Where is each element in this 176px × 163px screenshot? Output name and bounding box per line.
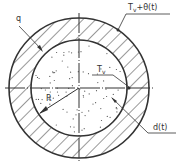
core-dot: [73, 127, 74, 128]
core-dot: [77, 109, 78, 110]
core-dot: [63, 52, 64, 53]
core-dot: [49, 104, 50, 105]
surface-temp-leader: [118, 14, 170, 30]
core-dot: [54, 80, 55, 81]
core-dot: [116, 107, 117, 108]
core-dot: [52, 71, 53, 72]
core-dot: [110, 117, 111, 118]
core-dot: [70, 126, 71, 127]
core-dot: [58, 95, 59, 96]
core-dot: [106, 53, 107, 54]
core-dot: [113, 94, 114, 95]
core-dot: [66, 92, 67, 93]
core-dot: [83, 96, 84, 97]
core-dot: [88, 73, 89, 74]
core-dot: [88, 46, 89, 47]
core-dot: [118, 90, 119, 91]
core-dot: [95, 102, 96, 103]
core-dot: [116, 69, 117, 70]
core-dot: [105, 89, 106, 90]
core-dot: [81, 112, 82, 113]
core-dot: [84, 91, 85, 92]
core-dot: [36, 99, 37, 100]
core-dot: [67, 66, 68, 67]
core-dot: [107, 116, 108, 117]
core-dot: [92, 104, 93, 105]
core-dot: [70, 72, 71, 73]
core-dot: [56, 70, 57, 71]
core-dot: [81, 130, 82, 131]
cross-section-diagram: R Tv+θ(t) q Tv d(t): [0, 0, 176, 163]
core-dot: [53, 98, 54, 99]
core-dot: [120, 71, 121, 72]
core-dot: [97, 82, 98, 83]
core-dot: [103, 98, 104, 99]
core-dot: [72, 85, 73, 86]
surface-temp-point: [117, 29, 120, 32]
core-dot: [100, 127, 101, 128]
core-dot: [40, 103, 41, 104]
core-dot: [101, 120, 102, 121]
core-dot: [73, 118, 74, 119]
core-dot: [83, 95, 84, 96]
core-dot: [63, 55, 64, 56]
core-dot: [96, 90, 97, 91]
core-dot: [80, 51, 81, 52]
core-dot: [35, 75, 36, 76]
core-dot: [56, 52, 57, 53]
core-dot: [62, 60, 63, 61]
core-dot: [37, 77, 38, 78]
core-dot: [56, 124, 57, 125]
core-dot: [75, 114, 76, 115]
thickness-label: d(t): [153, 123, 167, 132]
surface-temp-label: Tv+θ(t): [127, 3, 157, 13]
core-dot: [45, 89, 46, 90]
core-dot: [74, 131, 75, 132]
core-dot: [72, 77, 73, 78]
core-dot: [57, 91, 58, 92]
core-dot: [51, 57, 52, 58]
core-dot: [83, 71, 84, 72]
core-dot: [84, 128, 85, 129]
core-dot: [66, 112, 67, 113]
core-dot: [50, 91, 51, 92]
core-dot: [50, 82, 51, 83]
core-dot: [106, 96, 107, 97]
core-dot: [85, 115, 86, 116]
core-dot: [71, 52, 72, 53]
core-temp-point: [128, 87, 131, 90]
core-dot: [39, 78, 40, 79]
core-dot: [69, 78, 70, 79]
core-dot: [116, 108, 117, 109]
core-dot: [54, 72, 55, 73]
core-dot: [89, 93, 90, 94]
heat-flux-label: q: [16, 14, 21, 23]
core-dot: [116, 111, 117, 112]
core-dot: [100, 108, 101, 109]
core-dot: [88, 110, 89, 111]
core-dot: [63, 109, 64, 110]
core-dot: [49, 76, 50, 77]
core-dot: [109, 67, 110, 68]
core-dot: [42, 99, 43, 100]
core-dot: [68, 51, 69, 52]
core-dot: [103, 80, 104, 81]
core-dot: [38, 99, 39, 100]
radius-label: R: [46, 94, 52, 103]
